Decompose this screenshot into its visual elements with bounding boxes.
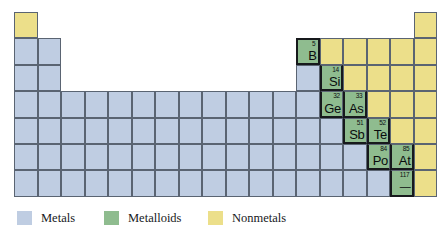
element-cell-te: 52Te [367, 118, 391, 144]
element-cell-nonmetal-r5c17 [390, 118, 414, 144]
element-cell-metal-r6c11 [249, 144, 273, 170]
element-cell-metal-r4c2 [38, 91, 62, 117]
element-cell-nonmetal-r3c16 [367, 65, 391, 91]
element-cell-metal-r6c10 [226, 144, 250, 170]
element-cell-metal-r4c9 [202, 91, 226, 117]
element-cell-metal-r5c12 [273, 118, 297, 144]
element-cell-metal-r4c3 [61, 91, 85, 117]
element-cell-metal-r6c7 [155, 144, 179, 170]
element-cell-metal-r7c15 [343, 170, 367, 196]
element-cell-metal-r7c3 [61, 170, 85, 196]
element-cell-nonmetal-r4c17 [390, 91, 414, 117]
element-cell-metal-r6c9 [202, 144, 226, 170]
element-symbol: At [392, 154, 411, 168]
element-cell-metal-r5c14 [320, 118, 344, 144]
element-cell-nonmetal-r4c16 [367, 91, 391, 117]
element-cell-metal-r2c1 [14, 38, 38, 64]
element-cell-metal-r7c10 [226, 170, 250, 196]
element-cell-metal-r7c5 [108, 170, 132, 196]
element-cell-metal-r6c4 [85, 144, 109, 170]
legend-swatch-metalloids [104, 211, 119, 225]
element-symbol: Si [322, 75, 341, 89]
element-cell-nonmetal-r4c18 [414, 91, 438, 117]
element-cell-nonmetal-r3c18 [414, 65, 438, 91]
element-cell-metal-r4c5 [108, 91, 132, 117]
element-cell-metal-r7c6 [132, 170, 156, 196]
element-cell-ge: 32Ge [320, 91, 344, 117]
element-symbol: Te [369, 128, 388, 142]
element-cell-metal-r4c11 [249, 91, 273, 117]
element-number: 84 [369, 145, 388, 153]
element-cell-metal-r7c13 [296, 170, 320, 196]
element-cell-metal-r7c11 [249, 170, 273, 196]
element-cell-metal-r5c6 [132, 118, 156, 144]
element-cell-nonmetal-r1c1 [14, 12, 38, 38]
legend: Metals Metalloids Nonmetals [0, 208, 442, 236]
element-cell-metal-r5c10 [226, 118, 250, 144]
element-cell-metal-r7c12 [273, 170, 297, 196]
legend-label-metalloids: Metalloids [128, 209, 181, 227]
element-cell-nonmetal-r2c14 [320, 38, 344, 64]
element-symbol: B [298, 49, 317, 63]
element-cell-as: 33As [343, 91, 367, 117]
element-cell-metal-r5c8 [179, 118, 203, 144]
element-symbol: Sb [345, 128, 365, 142]
periodic-table-grid: 5B14Si32Ge33As51Sb52Te84Po85At117— [14, 12, 437, 197]
element-cell-metal-r7c4 [85, 170, 109, 196]
element-cell-nonmetal-r7c18 [414, 170, 438, 196]
legend-label-nonmetals: Nonmetals [232, 209, 286, 227]
element-cell-metal-r5c5 [108, 118, 132, 144]
element-cell-metal-r5c3 [61, 118, 85, 144]
element-cell-at: 85At [390, 144, 414, 170]
element-cell-metal-r6c6 [132, 144, 156, 170]
element-cell-metal-r5c13 [296, 118, 320, 144]
legend-label-metals: Metals [41, 209, 75, 227]
element-cell-po: 84Po [367, 144, 391, 170]
element-symbol: Ge [322, 102, 342, 116]
element-cell-metal-r6c3 [61, 144, 85, 170]
element-cell-metal-r4c7 [155, 91, 179, 117]
element-cell-metal-r4c1 [14, 91, 38, 117]
element-cell-metal-r6c13 [296, 144, 320, 170]
element-cell-metal-r6c8 [179, 144, 203, 170]
element-cell-metal-r5c11 [249, 118, 273, 144]
element-cell-nonmetal-r2c16 [367, 38, 391, 64]
element-cell-metal-r4c6 [132, 91, 156, 117]
legend-swatch-nonmetals [208, 211, 223, 225]
element-number: 14 [322, 66, 340, 74]
element-cell-nonmetal-r2c17 [390, 38, 414, 64]
element-cell-metal-r7c7 [155, 170, 179, 196]
element-cell-sb: 51Sb [343, 118, 367, 144]
element-cell-nonmetal-r5c18 [414, 118, 438, 144]
element-cell-metal-r3c2 [38, 65, 62, 91]
element-cell-nonmetal-r1c18 [414, 12, 438, 38]
element-cell-metal-r3c13 [296, 65, 320, 91]
element-cell-nonmetal-r6c18 [414, 144, 438, 170]
element-cell-metal-r4c8 [179, 91, 203, 117]
element-number: 85 [392, 145, 410, 153]
element-cell-nonmetal-r2c15 [343, 38, 367, 64]
element-cell-metal-r7c9 [202, 170, 226, 196]
element-cell-metal-r5c4 [85, 118, 109, 144]
element-cell-b: 5B [296, 38, 320, 64]
element-cell-metal-r6c15 [343, 144, 367, 170]
element-number: 33 [345, 92, 363, 100]
element-cell-metal-r5c7 [155, 118, 179, 144]
element-symbol: Po [369, 154, 389, 168]
element-cell-metal-r5c2 [38, 118, 62, 144]
element-number: 51 [345, 119, 364, 127]
element-cell-metal-r6c14 [320, 144, 344, 170]
element-cell-metal-r4c12 [273, 91, 297, 117]
element-number: 32 [322, 92, 341, 100]
element-cell-metal-r4c10 [226, 91, 250, 117]
element-number: 52 [369, 119, 387, 127]
element-cell-metal-r7c1 [14, 170, 38, 196]
element-cell-—: 117— [390, 170, 414, 196]
element-cell-metal-r7c2 [38, 170, 62, 196]
element-cell-metal-r3c1 [14, 65, 38, 91]
element-cell-metal-r5c1 [14, 118, 38, 144]
element-cell-metal-r4c13 [296, 91, 320, 117]
element-cell-metal-r6c1 [14, 144, 38, 170]
element-symbol: As [345, 102, 364, 116]
element-cell-si: 14Si [320, 65, 344, 91]
